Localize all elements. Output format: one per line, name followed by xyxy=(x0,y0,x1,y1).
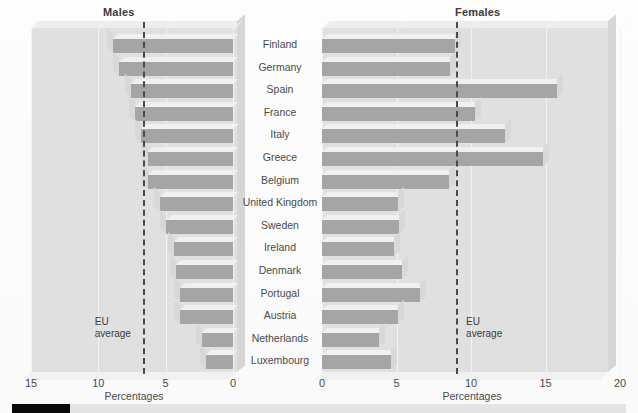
bar-face xyxy=(322,355,391,369)
bar-denmark[interactable] xyxy=(322,265,402,279)
country-label-italy: Italy xyxy=(238,128,322,140)
bar-top-face xyxy=(113,34,238,39)
bar-france[interactable] xyxy=(322,107,475,121)
bar-portugal[interactable] xyxy=(322,288,420,302)
bar-end-face xyxy=(160,210,166,234)
bar-top-face xyxy=(322,124,510,129)
bar-face xyxy=(322,175,449,189)
bar-germany[interactable] xyxy=(119,62,233,76)
bar-face xyxy=(113,39,233,53)
bar-top-face xyxy=(322,283,426,288)
bar-spain[interactable] xyxy=(322,84,557,98)
country-label-ireland: Ireland xyxy=(238,241,322,253)
bar-greece[interactable] xyxy=(148,152,233,166)
bar-top-face xyxy=(180,283,238,288)
eu-average-line xyxy=(456,22,458,374)
bar-top-face xyxy=(322,215,405,220)
bar-face xyxy=(322,152,543,166)
bar-italy[interactable] xyxy=(322,129,505,143)
bar-greece[interactable] xyxy=(322,152,543,166)
bar-spain[interactable] xyxy=(131,84,233,98)
axis-tick-label: 0 xyxy=(319,377,325,389)
axis-tick-label: 10 xyxy=(92,377,104,389)
bar-top-face xyxy=(131,79,239,84)
bar-united-kingdom[interactable] xyxy=(322,197,398,211)
panel-title-females: Females xyxy=(455,6,500,18)
bar-end-face xyxy=(394,232,400,256)
bar-top-face xyxy=(148,147,238,152)
eu-average-label-line1: EU xyxy=(95,316,131,328)
axis-tick-label: 10 xyxy=(465,377,477,389)
bar-face xyxy=(322,197,398,211)
bar-end-face xyxy=(174,300,180,324)
bar-germany[interactable] xyxy=(322,62,450,76)
bar-ireland[interactable] xyxy=(322,242,394,256)
country-label-united-kingdom: United Kingdom xyxy=(238,196,322,208)
country-label-finland: Finland xyxy=(238,38,322,50)
bar-face xyxy=(131,84,233,98)
bar-netherlands[interactable] xyxy=(322,333,379,347)
bar-top-face xyxy=(202,328,238,333)
bar-face xyxy=(322,333,379,347)
bar-luxembourg[interactable] xyxy=(322,355,391,369)
bar-top-face xyxy=(322,170,454,175)
panel-top-bevel-females xyxy=(322,21,615,28)
bar-france[interactable] xyxy=(135,107,233,121)
bar-sweden[interactable] xyxy=(166,220,233,234)
bar-face xyxy=(174,242,233,256)
bar-denmark[interactable] xyxy=(176,265,233,279)
bar-top-face xyxy=(322,260,408,265)
bar-face xyxy=(322,129,505,143)
bar-end-face xyxy=(107,29,113,53)
bar-top-face xyxy=(148,170,238,175)
eu-average-label-line2: average xyxy=(466,328,502,340)
bar-face xyxy=(206,355,233,369)
bar-face xyxy=(148,152,233,166)
axis-title-males: Percentages xyxy=(105,390,164,402)
bar-face xyxy=(202,333,233,347)
bar-face xyxy=(322,265,402,279)
country-label-netherlands: Netherlands xyxy=(238,332,322,344)
bar-portugal[interactable] xyxy=(180,288,233,302)
bar-end-face xyxy=(543,142,549,166)
bar-top-face xyxy=(322,192,403,197)
bar-austria[interactable] xyxy=(322,310,398,324)
bar-face xyxy=(119,62,233,76)
axis-tick-label: 20 xyxy=(614,377,626,389)
panel-top-bevel-males xyxy=(31,21,244,28)
eu-average-label-line1: EU xyxy=(466,316,502,328)
bar-top-face xyxy=(322,237,399,242)
bar-finland[interactable] xyxy=(322,39,455,53)
bar-row xyxy=(31,333,237,355)
gridline xyxy=(620,28,621,372)
bar-belgium[interactable] xyxy=(322,175,449,189)
bar-ireland[interactable] xyxy=(174,242,233,256)
bar-top-face xyxy=(119,57,239,62)
bar-netherlands[interactable] xyxy=(202,333,233,347)
bar-end-face xyxy=(379,323,385,347)
eu-average-line xyxy=(143,22,145,374)
axis-title-females: Percentages xyxy=(443,390,502,402)
bar-italy[interactable] xyxy=(141,129,233,143)
bar-face xyxy=(176,265,233,279)
bar-belgium[interactable] xyxy=(148,175,233,189)
bar-end-face xyxy=(420,278,426,302)
bar-sweden[interactable] xyxy=(322,220,399,234)
bar-top-face xyxy=(206,350,238,355)
bar-austria[interactable] xyxy=(180,310,233,324)
bar-luxembourg[interactable] xyxy=(206,355,233,369)
country-label-luxembourg: Luxembourg xyxy=(238,354,322,366)
bar-finland[interactable] xyxy=(113,39,233,53)
bar-end-face xyxy=(449,165,455,189)
bar-end-face xyxy=(125,74,131,98)
bar-face xyxy=(141,129,233,143)
country-label-germany: Germany xyxy=(238,61,322,73)
bottom-progress-strip[interactable] xyxy=(12,404,626,413)
bar-top-face xyxy=(160,192,238,197)
bar-united-kingdom[interactable] xyxy=(160,197,233,211)
bar-end-face xyxy=(475,97,481,121)
country-label-sweden: Sweden xyxy=(238,219,322,231)
bar-face xyxy=(322,84,557,98)
bar-face xyxy=(166,220,233,234)
bar-top-face xyxy=(322,350,396,355)
